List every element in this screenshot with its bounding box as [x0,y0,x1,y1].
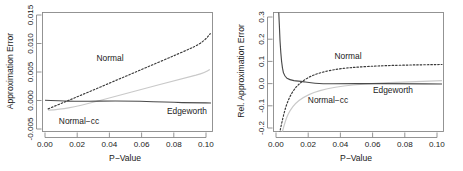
left-xtick-0: 0.00 [37,140,53,149]
right-xtick-5: 0.10 [429,140,445,149]
left-x-axis: 0.00 0.02 0.04 0.06 0.08 0.10 [37,133,214,150]
right-label-normal: Normal [335,51,362,61]
right-xtick-0: 0.00 [268,140,284,149]
left-x-axis-title: P−Value [109,153,141,163]
right-y-axis: -0.2 -0.1 0.0 0.1 0.2 0.3 [257,11,273,135]
right-chart-panel: -0.2 -0.1 0.0 0.1 0.2 0.3 0.00 0.02 0.04… [231,0,463,171]
right-ytick-4: 0.2 [257,33,266,45]
left-curve-edgeworth [45,100,211,103]
right-xtick-3: 0.06 [365,140,381,149]
right-ytick-2: 0.0 [257,77,266,89]
left-xtick-3: 0.06 [134,140,150,149]
left-xtick-2: 0.04 [102,140,118,149]
left-label-normal-cc: Normal−cc [59,116,99,126]
left-ytick-3: 0.010 [26,33,35,54]
right-x-axis: 0.00 0.02 0.04 0.06 0.08 0.10 [268,133,445,150]
right-ytick-3: 0.1 [257,55,266,67]
right-label-normal-cc: Normal−cc [308,95,348,105]
right-plot-frame [274,13,444,132]
left-curve-normal-cc [48,70,210,111]
right-x-axis-title: P−Value [340,153,372,163]
left-ytick-0: -0.005 [26,117,35,140]
figure-container: -0.005 0.000 0.005 0.010 0.015 0.00 0.02… [0,0,463,171]
left-label-edgeworth: Edgeworth [167,106,207,116]
left-xtick-4: 0.08 [166,140,182,149]
right-ytick-0: -0.2 [257,121,266,135]
right-ytick-5: 0.3 [257,11,266,23]
left-ytick-4: 0.015 [26,4,35,25]
right-y-axis-title: Rel. Approximation Error [236,24,246,118]
right-xtick-4: 0.08 [397,140,413,149]
left-ytick-2: 0.005 [26,61,35,82]
left-y-axis: -0.005 0.000 0.005 0.010 0.015 [26,4,42,140]
left-y-axis-title: Approximation Error [5,33,15,110]
left-xtick-1: 0.02 [69,140,85,149]
left-xtick-5: 0.10 [198,140,214,149]
right-curve-normal-cc [282,81,442,135]
left-label-normal: Normal [97,53,124,63]
left-curve-normal [48,34,210,109]
left-chart-panel: -0.005 0.000 0.005 0.010 0.015 0.00 0.02… [0,0,232,171]
right-curve-edgeworth [279,9,442,84]
right-xtick-1: 0.02 [300,140,316,149]
left-ytick-1: 0.000 [26,90,35,111]
right-ytick-1: -0.1 [257,98,266,112]
right-xtick-2: 0.04 [333,140,349,149]
right-curve-normal [280,65,443,134]
right-label-edgeworth: Edgeworth [373,85,413,95]
